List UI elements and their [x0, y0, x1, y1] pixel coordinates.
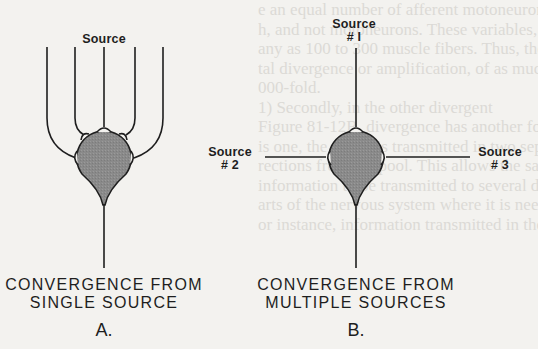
soma-a — [77, 131, 132, 205]
fiber-5 — [134, 47, 163, 158]
caption-b-line1: CONVERGENCE FROM — [246, 276, 466, 294]
source-label-a: Source — [74, 33, 134, 46]
knob — [97, 128, 111, 132]
caption-b-line2: MULTIPLE SOURCES — [246, 294, 466, 312]
soma-b — [329, 131, 384, 205]
source-2-label: Source # 2 — [200, 146, 260, 172]
fiber-4 — [126, 47, 135, 135]
panel-b-neuron — [265, 48, 470, 268]
source-1-number: # I — [324, 31, 384, 44]
caption-a-line1: CONVERGENCE FROM — [4, 276, 204, 294]
source-2-number: # 2 — [200, 159, 260, 172]
source-1-label: Source # I — [324, 18, 384, 44]
fiber-1 — [47, 47, 76, 158]
fiber-2 — [75, 47, 84, 135]
panel-letter-a: A. — [84, 320, 124, 341]
source-3-number: # 3 — [470, 159, 530, 172]
panel-letter-b: B. — [336, 320, 376, 341]
knob — [349, 128, 363, 132]
caption-a-line2: SINGLE SOURCE — [4, 294, 204, 312]
panel-a-neuron — [47, 47, 163, 268]
source-3-label: Source # 3 — [470, 146, 530, 172]
